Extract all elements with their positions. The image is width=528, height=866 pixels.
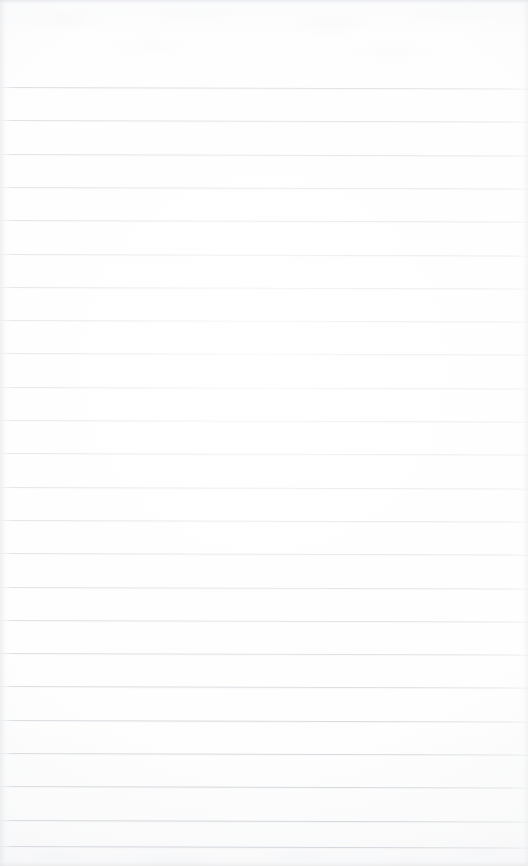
writing-line-row[interactable]: [0, 120, 528, 153]
writing-line-row[interactable]: [0, 720, 528, 753]
writing-line-row[interactable]: [0, 254, 528, 287]
writing-line-row[interactable]: [0, 553, 528, 586]
writing-line-row[interactable]: [0, 620, 528, 653]
writing-area[interactable]: [0, 0, 528, 866]
writing-line-row[interactable]: [0, 320, 528, 353]
scanned-page: [0, 0, 528, 866]
writing-line-row[interactable]: [0, 812, 528, 845]
writing-line-row[interactable]: [0, 154, 528, 187]
writing-line-row[interactable]: [0, 420, 528, 453]
writing-line-row[interactable]: [0, 287, 528, 320]
writing-line-row[interactable]: [0, 653, 528, 686]
writing-line-row[interactable]: [0, 353, 528, 386]
writing-line-row[interactable]: [0, 487, 528, 520]
writing-line-row[interactable]: [0, 220, 528, 253]
writing-line-row[interactable]: [0, 87, 528, 120]
writing-line-row[interactable]: [0, 187, 528, 220]
writing-line-row[interactable]: [0, 753, 528, 786]
writing-line-row[interactable]: [0, 587, 528, 620]
writing-line-row[interactable]: [0, 520, 528, 553]
writing-line-row[interactable]: [0, 453, 528, 486]
writing-line-row[interactable]: [0, 686, 528, 719]
writing-line-row[interactable]: [0, 387, 528, 420]
writing-line-row[interactable]: [0, 54, 528, 87]
